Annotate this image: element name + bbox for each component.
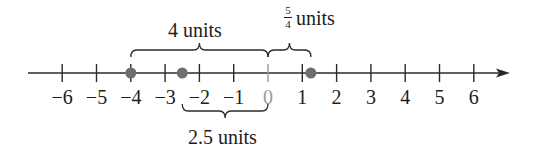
fraction-five-fourths: 5 4 (284, 5, 292, 30)
brace-label-4-units: 4 units (168, 20, 222, 40)
tick-label: 0 (263, 87, 273, 107)
tick-label: 2 (332, 87, 342, 107)
plotted-point (177, 68, 188, 79)
number-line-diagram: −6−5−4−3−2−10123456 4 units 5 4 units 2.… (0, 0, 538, 153)
tick-label: 4 (400, 87, 410, 107)
tick-label: −2 (189, 87, 210, 107)
tick-label: 5 (435, 87, 445, 107)
fraction-denominator: 4 (285, 19, 291, 30)
number-line-svg (0, 0, 538, 153)
plotted-point (305, 68, 316, 79)
tick-label: −1 (223, 87, 244, 107)
tick-label: −5 (86, 87, 107, 107)
brace-label-five-fourths: 5 4 units (284, 5, 335, 30)
brace-label-2-5-units: 2.5 units (188, 127, 257, 147)
tick-label: −6 (52, 87, 73, 107)
fraction-units-label: units (296, 8, 335, 28)
tick-label: 6 (469, 87, 479, 107)
fraction-numerator: 5 (285, 5, 291, 16)
curly-brace (268, 43, 311, 57)
curly-brace (131, 43, 268, 57)
tick-label: 3 (366, 87, 376, 107)
plotted-point (125, 68, 136, 79)
tick-label: −3 (154, 87, 175, 107)
tick-label: 1 (297, 87, 307, 107)
tick-label: −4 (120, 87, 141, 107)
